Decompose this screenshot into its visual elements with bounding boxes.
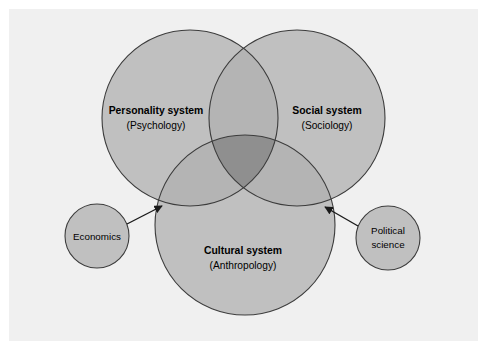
personality-system-discipline: (Psychology) [127, 120, 186, 131]
cultural-system-title: Cultural system [204, 245, 282, 256]
diagram-canvas: Personality system (Psychology) Social s… [0, 0, 487, 352]
social-system-title: Social system [292, 105, 361, 116]
political-science-label-line1: Political [371, 225, 405, 236]
political-science-circle[interactable] [356, 206, 420, 270]
social-systems-venn-diagram: Personality system (Psychology) Social s… [0, 0, 487, 352]
personality-system-title: Personality system [109, 105, 204, 116]
cultural-system-discipline: (Anthropology) [210, 260, 277, 271]
social-system-discipline: (Sociology) [302, 120, 353, 131]
political-science-label-line2: science [371, 239, 405, 250]
economics-label: Economics [73, 231, 121, 242]
